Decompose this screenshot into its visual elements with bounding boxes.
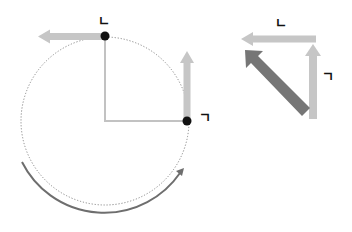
label-top-left: ㄴ bbox=[98, 14, 110, 27]
rotation-arc-arrow bbox=[22, 162, 184, 213]
diagram-canvas bbox=[0, 0, 352, 232]
right-velocity-arrow bbox=[180, 51, 194, 121]
label-top-right: ㄴ bbox=[275, 16, 287, 29]
top-point-dot bbox=[101, 32, 110, 41]
right-point-dot bbox=[183, 117, 192, 126]
top-velocity-arrow bbox=[38, 30, 105, 44]
label-right-left: ㄱ bbox=[199, 111, 211, 124]
right-horizontal-arrow bbox=[241, 32, 316, 46]
label-right-right: ㄱ bbox=[322, 70, 334, 83]
radius-lines bbox=[105, 36, 187, 121]
resultant-diagonal-arrow bbox=[245, 50, 310, 116]
